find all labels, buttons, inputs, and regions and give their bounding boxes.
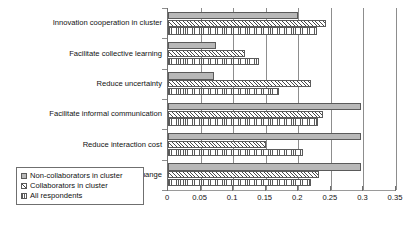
x-axis-tick bbox=[200, 186, 201, 191]
x-axis-tick-label: 0.25 bbox=[322, 193, 337, 202]
horizontal-bar-chart: Innovation cooperation in clusterFacilit… bbox=[0, 0, 414, 241]
x-axis-tick bbox=[297, 186, 298, 191]
category-label: Innovation cooperation in cluster bbox=[53, 18, 166, 27]
x-axis-tick-label: 0.2 bbox=[292, 193, 303, 202]
x-axis-tick-label: 0.1 bbox=[227, 193, 238, 202]
legend-item: All respondents bbox=[21, 191, 139, 200]
bar bbox=[168, 58, 259, 65]
category-axis-labels: Innovation cooperation in clusterFacilit… bbox=[0, 0, 166, 180]
legend-item: Collaborators in cluster bbox=[21, 181, 139, 190]
legend-label: Non-collaborators in cluster bbox=[30, 171, 122, 180]
bar bbox=[168, 20, 326, 27]
x-axis-tick bbox=[395, 186, 396, 191]
legend-swatch-icon bbox=[21, 173, 27, 179]
gridline bbox=[396, 8, 397, 190]
legend-swatch-icon bbox=[21, 183, 27, 189]
bar bbox=[168, 88, 279, 95]
x-axis-tick bbox=[167, 186, 168, 191]
y-axis-tick bbox=[162, 99, 167, 100]
bar bbox=[168, 163, 361, 170]
bar bbox=[168, 149, 303, 156]
bar bbox=[168, 12, 298, 19]
legend-label: Collaborators in cluster bbox=[30, 181, 108, 190]
legend-label: All respondents bbox=[30, 191, 82, 200]
category-label: Reduce interaction cost bbox=[83, 140, 166, 149]
x-axis-tick bbox=[265, 186, 266, 191]
bar bbox=[168, 42, 216, 49]
bar bbox=[168, 27, 317, 34]
bar bbox=[168, 103, 361, 110]
bar bbox=[168, 133, 361, 140]
y-axis-tick bbox=[162, 190, 167, 191]
legend-item: Non-collaborators in cluster bbox=[21, 171, 139, 180]
x-axis-tick-label: 0.35 bbox=[388, 193, 403, 202]
category-label: Facilitate informal communication bbox=[49, 109, 166, 118]
category-label: Reduce uncertainty bbox=[97, 79, 166, 88]
bar bbox=[168, 171, 319, 178]
x-axis-tick-label: 0.15 bbox=[257, 193, 272, 202]
y-axis-tick bbox=[162, 160, 167, 161]
x-axis-tick bbox=[330, 186, 331, 191]
category-label: Facilitate collective learning bbox=[69, 49, 166, 58]
bar bbox=[168, 111, 323, 118]
chart-legend: Non-collaborators in cluster Collaborato… bbox=[16, 167, 144, 205]
bar bbox=[168, 179, 311, 186]
bar bbox=[168, 141, 266, 148]
x-axis-tick-label: 0 bbox=[165, 193, 169, 202]
y-axis-tick bbox=[162, 8, 167, 9]
bar bbox=[168, 118, 318, 125]
bar bbox=[168, 50, 245, 57]
y-axis-tick bbox=[162, 38, 167, 39]
x-axis-tick-label: 0.3 bbox=[357, 193, 368, 202]
plot-area bbox=[167, 8, 395, 190]
x-axis-tick-label: 0.05 bbox=[192, 193, 207, 202]
x-axis-tick bbox=[232, 186, 233, 191]
x-axis-tick bbox=[362, 186, 363, 191]
gridline bbox=[363, 8, 364, 190]
y-axis-tick bbox=[162, 69, 167, 70]
y-axis-tick bbox=[162, 129, 167, 130]
bar bbox=[168, 80, 311, 87]
bar bbox=[168, 72, 214, 79]
legend-swatch-icon bbox=[21, 193, 27, 199]
